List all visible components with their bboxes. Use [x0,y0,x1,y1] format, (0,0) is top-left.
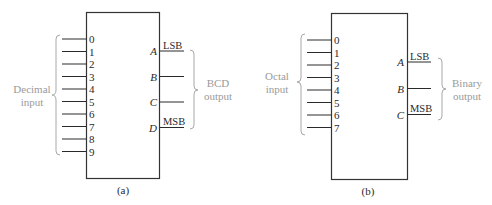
output-brace-icon [190,50,198,129]
input-label: 4 [89,83,95,95]
lsb-tag: LSB [163,40,182,51]
input-label: 1 [89,46,95,58]
input-label: 5 [89,96,95,108]
encoder-b-inputs: 0 1 2 3 4 5 6 7 [307,34,340,134]
output-group-label: BCD [207,77,230,89]
input-label: 2 [334,59,340,71]
output-port-label: B [397,83,404,95]
output-port-label: C [397,109,405,121]
output-group-label: output [453,90,481,102]
input-label: 2 [89,58,95,70]
input-label: 4 [334,84,340,96]
output-port-label: D [148,122,157,134]
output-port-label: C [150,96,158,108]
input-group-label: input [266,83,289,95]
input-group-label: Decimal [13,83,50,95]
input-label: 8 [89,133,95,145]
lsb-tag: LSB [410,51,429,62]
input-label: 7 [89,121,95,133]
input-label: 3 [89,71,95,83]
output-brace-icon [438,58,446,120]
input-label: 6 [334,109,340,121]
input-group-label: Octal [265,70,289,82]
octal-to-binary-encoder: 0 1 2 3 4 5 6 7 Octal input A B C LSB MS… [265,14,482,199]
decimal-to-bcd-encoder: 0 1 2 3 4 5 6 7 8 9 Decimal input A B C … [13,13,232,198]
input-label: 0 [89,33,95,45]
encoder-b-block [332,14,408,180]
encoder-diagrams: 0 1 2 3 4 5 6 7 8 9 Decimal input A B C … [0,0,492,205]
caption-a: (a) [117,184,130,197]
encoder-a-block [87,13,160,179]
caption-b: (b) [362,185,375,198]
input-label: 3 [334,72,340,84]
msb-tag: MSB [163,116,185,127]
output-port-label: A [396,56,404,68]
encoder-a-inputs: 0 1 2 3 4 5 6 7 8 9 [62,33,95,158]
input-label: 7 [334,122,340,134]
input-label: 5 [334,97,340,109]
output-port-label: A [149,45,157,57]
msb-tag: MSB [410,103,432,114]
output-group-label: output [204,90,232,102]
input-group-label: input [21,96,44,108]
input-label: 0 [334,34,340,46]
output-group-label: Binary [452,77,482,89]
input-label: 1 [334,47,340,59]
input-brace-icon [297,34,305,135]
output-port-label: B [150,71,157,83]
input-brace-icon [52,35,60,155]
input-label: 9 [89,146,95,158]
input-label: 6 [89,108,95,120]
encoder-b-outputs: A B C LSB MSB [396,51,432,121]
